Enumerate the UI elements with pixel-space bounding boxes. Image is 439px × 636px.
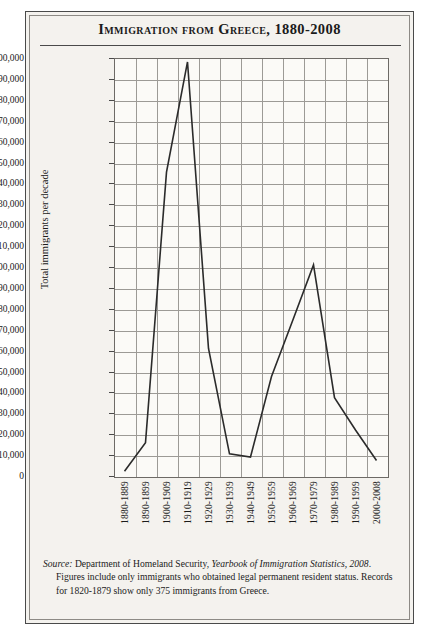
x-tick-label: 1910-1919 [183,481,193,524]
series-line-chart [114,58,387,476]
y-tick-label: 30,000 [0,408,24,418]
y-tick-label: 160,000 [0,137,24,147]
x-tick-label: 1990-1999 [351,481,361,524]
x-tick-label: 1940-1949 [246,481,256,524]
y-tick-label: 60,000 [0,346,24,356]
source-label: Source: [43,558,72,569]
y-tick-label: 120,000 [0,220,24,230]
y-tick-label: 10,000 [0,450,24,460]
x-tick-label: 1980-1989 [330,481,340,524]
y-tick-label: 90,000 [0,283,24,293]
y-axis-title: Total immigrants per decade [39,80,50,380]
x-tick-label: 2000-2008 [372,481,382,524]
y-tick-label: 150,000 [0,158,24,168]
y-tick-label: 140,000 [0,178,24,188]
x-tick-label: 1950-1959 [267,481,277,524]
y-tick-label: 100,000 [0,262,24,272]
y-tick-label: 20,000 [0,429,24,439]
y-tick-mark [109,476,114,477]
source-publication: Yearbook of Immigration Statistics, [211,558,347,569]
y-tick-label: 190,000 [0,74,24,84]
y-tick-label: 170,000 [0,116,24,126]
x-tick-label: 1880-1889 [120,481,130,524]
x-tick-label: 1960-1969 [288,481,298,524]
x-tick-label: 1930-1939 [225,481,235,524]
x-tick-label: 1900-1909 [162,481,172,524]
x-tick-label: 1920-1929 [204,481,214,524]
figure-panel: Immigration from Greece, 1880-2008 Total… [25,11,414,624]
x-tick-label: 1970-1979 [309,481,319,524]
series-polyline [125,62,377,471]
plot-wrapper: Total immigrants per decade 200,000190,0… [26,12,415,625]
y-tick-label: 70,000 [0,325,24,335]
y-tick-label: 80,000 [0,304,24,314]
y-tick-label: 40,000 [0,387,24,397]
x-tick-label: 1890-1899 [141,481,151,524]
y-tick-label: 110,000 [0,241,24,251]
y-tick-label: 180,000 [0,95,24,105]
y-tick-label: 200,000 [0,53,24,63]
y-tick-label: 130,000 [0,199,24,209]
source-department: Department of Homeland Security, [72,558,211,569]
source-note: Source: Department of Homeland Security,… [43,557,395,597]
y-tick-label: 50,000 [0,367,24,377]
source-year: 2008 [349,558,368,569]
y-tick-label: 0 [19,471,24,481]
